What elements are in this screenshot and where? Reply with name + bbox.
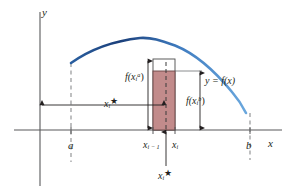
y-axis-label: y: [42, 7, 47, 18]
endpoint-b-label: b: [246, 140, 252, 151]
figure-canvas: [0, 0, 290, 194]
x-i-star-h-sup: ★: [110, 96, 118, 106]
f-xi-a-label: f(xia): [125, 72, 144, 83]
x-i-star-b-sup: ★: [164, 168, 172, 178]
curve-equation-label: y = f(x): [205, 76, 235, 86]
x-i-minus-1-sub: i − 1: [147, 143, 159, 150]
x-i-label: xi: [172, 140, 178, 151]
f-xi-a-fn: f(x: [125, 71, 136, 82]
endpoint-a-label: a: [68, 140, 74, 151]
f-xi-a-close: ): [140, 71, 143, 82]
riemann-sum-figure: y x a b xi − 1 xi xi★ xi★ f(xia) f(xib) …: [0, 0, 290, 194]
shaded-rectangle: [153, 71, 175, 130]
x-i-star-below-axis-label: xi★: [158, 169, 172, 182]
f-xi-b-close: ): [201, 95, 204, 106]
x-i-sub: i: [176, 143, 178, 150]
x-i-star-horizontal-label: xi★: [104, 97, 118, 110]
f-xi-b-fn: f(x: [186, 95, 197, 106]
x-axis-label: x: [268, 138, 273, 149]
f-xi-b-label: f(xib): [186, 96, 205, 107]
x-i-minus-1-label: xi − 1: [143, 140, 160, 151]
